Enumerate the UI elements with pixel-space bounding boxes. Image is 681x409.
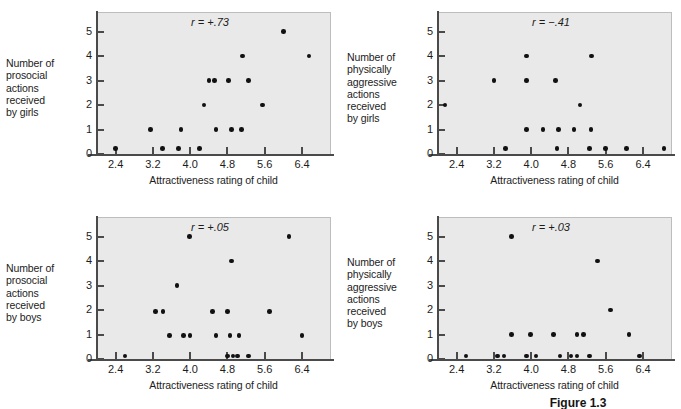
y-tick-label: 3 — [76, 75, 92, 86]
data-point — [240, 54, 245, 59]
correlation-annotation: r = +.73 — [150, 16, 270, 28]
y-tick-mark — [439, 334, 445, 336]
y-tick-mark — [98, 31, 104, 33]
data-point — [229, 259, 234, 264]
x-tick-label: 5.6 — [250, 364, 280, 375]
y-tick-label: 0 — [76, 353, 92, 364]
x-tick-mark — [456, 352, 458, 359]
y-tick-mark — [98, 129, 104, 131]
data-point — [608, 308, 613, 313]
x-tick-mark — [530, 352, 532, 359]
y-tick-mark — [439, 309, 445, 311]
data-point — [214, 127, 219, 132]
data-point — [239, 127, 244, 132]
y-axis-label: Number of physically aggressive actions … — [347, 256, 431, 330]
data-point — [214, 333, 219, 338]
y-tick-mark — [98, 104, 104, 106]
data-point — [229, 127, 234, 132]
panel-prosocial-boys: Number of prosocial actions received by … — [0, 205, 340, 409]
x-tick-mark — [264, 352, 266, 359]
y-axis-label: Number of physically aggressive actions … — [347, 51, 431, 125]
x-axis-line — [88, 359, 334, 361]
data-point — [492, 78, 497, 83]
data-point — [246, 354, 251, 359]
data-point — [160, 146, 165, 151]
x-axis-title: Attractiveness rating of child — [438, 174, 671, 186]
y-tick-label: 5 — [417, 231, 433, 242]
x-tick-mark — [301, 147, 303, 154]
data-point — [627, 332, 632, 337]
x-tick-label: 5.6 — [250, 159, 280, 170]
data-point — [161, 309, 166, 314]
y-tick-mark — [439, 55, 445, 57]
data-point — [225, 309, 230, 314]
y-axis-line — [437, 216, 439, 360]
data-point — [287, 234, 292, 239]
x-tick-label: 3.2 — [138, 364, 168, 375]
plot-area — [438, 12, 672, 155]
correlation-annotation: r = +.05 — [150, 221, 270, 233]
data-point — [181, 333, 186, 338]
data-point — [207, 78, 212, 83]
x-tick-label: 4.8 — [553, 159, 583, 170]
y-tick-label: 3 — [417, 280, 433, 291]
data-point — [228, 333, 233, 338]
y-tick-label: 1 — [76, 124, 92, 135]
data-point — [555, 146, 560, 151]
x-tick-label: 6.4 — [628, 364, 658, 375]
y-tick-label: 5 — [76, 26, 92, 37]
data-point — [260, 103, 265, 108]
y-tick-label: 3 — [76, 280, 92, 291]
x-tick-mark — [115, 352, 117, 359]
y-tick-mark — [439, 358, 445, 360]
data-point — [637, 354, 642, 359]
y-tick-mark — [98, 358, 104, 360]
data-point — [503, 146, 508, 151]
y-tick-label: 1 — [417, 124, 433, 135]
data-point — [281, 29, 286, 34]
x-tick-label: 2.4 — [442, 159, 472, 170]
x-axis-title: Attractiveness rating of child — [438, 379, 671, 391]
y-tick-label: 5 — [417, 26, 433, 37]
data-point — [662, 146, 667, 151]
y-axis-line — [96, 11, 98, 155]
y-tick-mark — [98, 285, 104, 287]
x-tick-mark — [189, 352, 191, 359]
data-point — [509, 332, 514, 337]
data-point — [587, 146, 592, 151]
y-tick-label: 0 — [417, 148, 433, 159]
y-tick-label: 3 — [417, 75, 433, 86]
data-point — [167, 333, 172, 338]
x-tick-label: 3.2 — [138, 159, 168, 170]
data-point — [575, 332, 580, 337]
data-point — [572, 127, 577, 132]
data-point — [212, 78, 217, 83]
x-tick-label: 2.4 — [442, 364, 472, 375]
x-axis-title: Attractiveness rating of child — [97, 174, 330, 186]
data-point — [541, 127, 546, 132]
y-tick-label: 4 — [417, 255, 433, 266]
data-point — [148, 127, 153, 132]
y-tick-label: 4 — [76, 50, 92, 61]
x-tick-mark — [152, 352, 154, 359]
x-tick-mark — [152, 147, 154, 154]
data-point — [226, 78, 231, 83]
y-tick-label: 0 — [76, 148, 92, 159]
y-tick-mark — [98, 334, 104, 336]
data-point — [176, 146, 181, 151]
x-tick-label: 4.8 — [553, 364, 583, 375]
y-tick-label: 1 — [76, 329, 92, 340]
data-point — [528, 332, 533, 337]
y-tick-mark — [439, 80, 445, 82]
y-tick-label: 4 — [417, 50, 433, 61]
data-point — [187, 234, 192, 239]
x-tick-label: 4.0 — [175, 364, 205, 375]
y-tick-mark — [439, 236, 445, 238]
data-point — [595, 259, 600, 264]
y-axis-line — [96, 216, 98, 360]
x-tick-mark — [493, 147, 495, 154]
x-axis-line — [429, 154, 675, 156]
correlation-annotation: r = +.03 — [491, 221, 611, 233]
y-tick-label: 2 — [76, 304, 92, 315]
x-tick-label: 6.4 — [287, 364, 317, 375]
